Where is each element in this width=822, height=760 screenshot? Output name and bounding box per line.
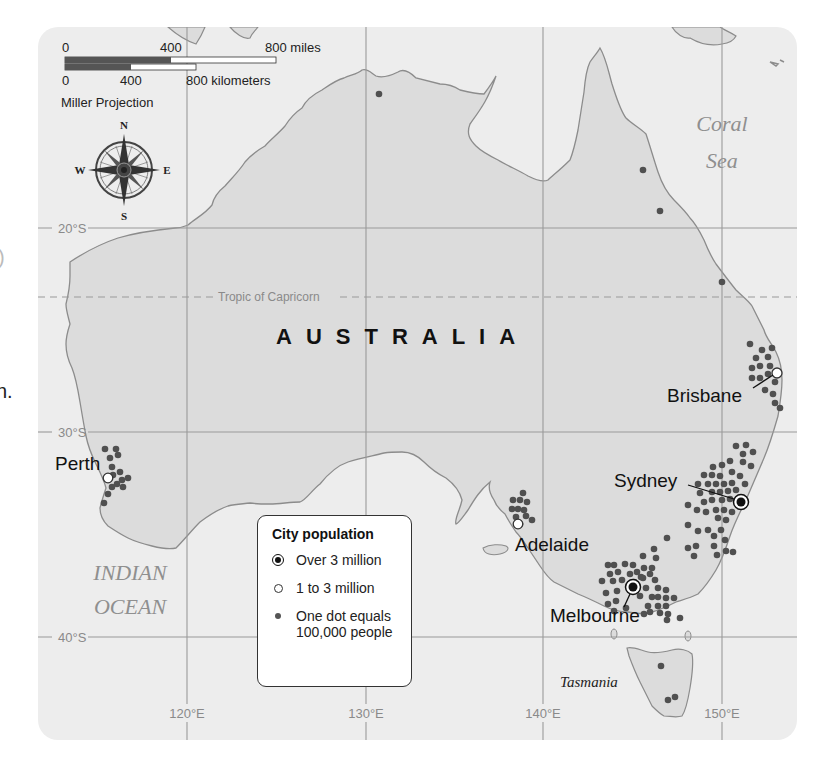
city-label-perth: Perth — [55, 453, 100, 474]
city-population-legend: City population Over 3 million 1 to 3 mi… — [257, 515, 412, 687]
legend-label-1-to-3-million: 1 to 3 million — [296, 580, 375, 596]
legend-label-line1: One dot equals — [296, 608, 391, 624]
longitude-label-150e: 150°E — [704, 706, 740, 721]
latitude-label-30s: 30°S — [58, 425, 87, 440]
legend-label-line2: 100,000 people — [296, 624, 393, 640]
city-label-brisbane: Brisbane — [667, 385, 742, 406]
longitude-label-120e: 120°E — [169, 706, 205, 721]
compass-east: E — [163, 164, 170, 176]
projection-label: Miller Projection — [61, 95, 153, 110]
svg-text:800 kilometers: 800 kilometers — [186, 73, 271, 88]
country-label-australia: AUSTRALIA — [276, 324, 529, 349]
1-to-3-million-icon — [272, 580, 296, 596]
city-label-melbourne: Melbourne — [550, 605, 640, 626]
latitude-label-20s: 20°S — [58, 221, 87, 236]
coral-sea-label-line1: Coral — [696, 111, 747, 136]
legend-label-over-3-million: Over 3 million — [296, 552, 382, 568]
tropic-of-capricorn-label: Tropic of Capricorn — [218, 290, 320, 304]
longitude-label-140e: 140°E — [525, 706, 561, 721]
tasmania-label: Tasmania — [560, 674, 618, 690]
legend-label-population-dot: One dot equals 100,000 people — [296, 608, 393, 640]
svg-text:400: 400 — [120, 73, 142, 88]
svg-text:0: 0 — [62, 40, 69, 55]
legend-item-1-to-3-million: 1 to 3 million — [272, 580, 401, 596]
compass-south: S — [121, 210, 127, 222]
city-marker-adelaide — [513, 519, 523, 529]
indian-ocean-label-line1: INDIAN — [92, 560, 168, 585]
legend-item-population-dot: One dot equals 100,000 people — [272, 608, 401, 640]
compass-north: N — [120, 119, 128, 131]
svg-text:800 miles: 800 miles — [265, 40, 321, 55]
legend-item-over-3-million: Over 3 million — [272, 552, 401, 568]
population-dot-icon — [272, 608, 296, 624]
svg-text:0: 0 — [62, 73, 69, 88]
indian-ocean-label-line2: OCEAN — [94, 594, 167, 619]
over-3-million-icon — [272, 552, 296, 568]
coral-sea-label-line2: Sea — [706, 148, 738, 173]
city-label-adelaide: Adelaide — [515, 534, 589, 555]
longitude-label-130e: 130°E — [348, 706, 384, 721]
city-label-sydney: Sydney — [614, 470, 678, 491]
city-marker-perth — [103, 473, 113, 483]
city-marker-brisbane — [772, 368, 782, 378]
legend-title: City population — [272, 526, 401, 542]
compass-west: W — [75, 164, 86, 176]
svg-text:400: 400 — [160, 40, 182, 55]
latitude-label-40s: 40°S — [58, 630, 87, 645]
